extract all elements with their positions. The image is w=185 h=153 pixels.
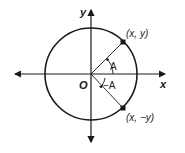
point-lower-label: (x, −y) <box>126 112 154 123</box>
point-upper <box>121 40 126 45</box>
x-axis-label: x <box>159 78 167 90</box>
angle-a-label: A <box>110 61 117 72</box>
point-upper-label: (x, y) <box>126 28 148 39</box>
unit-circle-diagram: y x O (x, y) (x, −y) A −A <box>0 0 185 153</box>
point-lower <box>121 106 126 111</box>
origin-label: O <box>79 79 88 91</box>
radius-upper <box>91 42 123 74</box>
angle-neg-a-label: −A <box>103 80 116 91</box>
y-axis-label: y <box>79 6 87 18</box>
